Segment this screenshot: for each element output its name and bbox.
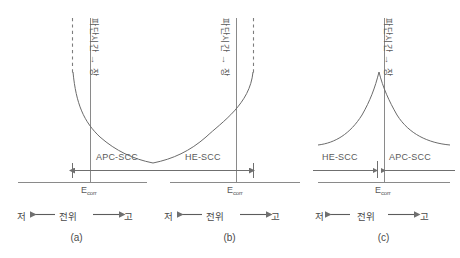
figure-container: 파단시간 → 장 APC-SCC Ecorr 저 전위 고 (a) 파단시간 →… xyxy=(0,0,460,258)
region-label-apc-scc-c: APC-SCC xyxy=(389,152,431,162)
region-label-apc-scc-a: APC-SCC xyxy=(96,152,138,162)
panel-a: 파단시간 → 장 APC-SCC Ecorr 저 전위 고 (a) xyxy=(0,0,153,258)
axis-name-label-b: 전위 xyxy=(206,209,224,223)
panel-caption-c: (c) xyxy=(307,232,460,243)
axis-high-label-c: 고 xyxy=(420,209,429,223)
axis-low-label-b: 저 xyxy=(164,209,173,223)
y-axis-label-a: 파단시간 → 장 xyxy=(88,18,101,76)
ecorr-label-a: Ecorr xyxy=(81,185,97,195)
axis-low-label-a: 저 xyxy=(17,209,26,223)
ecorr-label-b: Ecorr xyxy=(227,185,243,195)
axis-name-label-a: 전위 xyxy=(59,209,77,223)
panel-c: 파단시간 → 장 HE-SCC APC-SCC Ecorr 저 전위 고 (c) xyxy=(307,0,460,258)
region-label-he-scc-c: HE-SCC xyxy=(322,152,358,162)
ecorr-label-c: Ecorr xyxy=(375,185,391,195)
region-label-he-scc-b: HE-SCC xyxy=(185,152,221,162)
axis-high-label-a: 고 xyxy=(124,209,133,223)
axis-name-label-c: 전위 xyxy=(357,209,375,223)
axis-low-label-c: 저 xyxy=(315,209,324,223)
panel-caption-a: (a) xyxy=(0,232,153,243)
y-axis-label-c: 파단시간 → 장 xyxy=(382,18,395,76)
y-axis-label-b: 파단시간 → 장 xyxy=(219,18,232,76)
panel-caption-b: (b) xyxy=(153,232,306,243)
ecorr-subscript-b: corr xyxy=(233,190,243,196)
panel-b: 파단시간 → 장 HE-SCC Ecorr 저 전위 고 (b) xyxy=(153,0,306,258)
ecorr-subscript-c: corr xyxy=(381,190,391,196)
ecorr-subscript-a: corr xyxy=(87,190,97,196)
axis-high-label-b: 고 xyxy=(271,209,280,223)
